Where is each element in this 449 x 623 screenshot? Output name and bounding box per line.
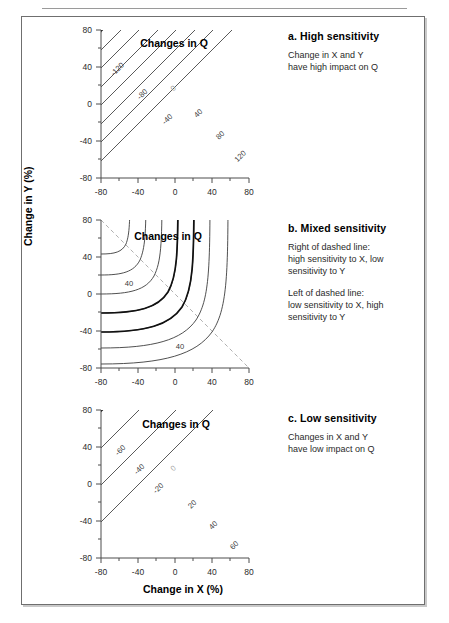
panel-c-xtick-labels: -80 -40 0 40 80 — [95, 567, 254, 577]
xtick-label: -40 — [132, 377, 145, 387]
xtick-label: 40 — [207, 567, 217, 577]
ytick-label: 80 — [83, 215, 93, 225]
contour-label: 120 — [233, 149, 248, 164]
ytick-label: 80 — [83, 25, 93, 35]
ytick-label: -40 — [80, 136, 93, 146]
panel-b-svg: 40 40 Changes in Q 80 40 0 -40 -80 — [70, 212, 260, 394]
xtick-label: 40 — [207, 377, 217, 387]
xtick-label: 0 — [173, 567, 178, 577]
contour-label: 40 — [192, 107, 204, 119]
ytick-label: -40 — [80, 516, 93, 526]
figure-root: -120 -80 -40 0 40 80 120 Changes in Q — [0, 0, 449, 623]
panel-a-description: Change in X and Y have high impact on Q — [288, 49, 418, 73]
ytick-label: 40 — [83, 62, 93, 72]
panel-a-ytick-labels: 80 40 0 -40 -80 — [80, 25, 93, 183]
contour-label: 40 — [176, 342, 184, 351]
xtick-label: -40 — [132, 187, 145, 197]
panel-a-contour-title: Changes in Q — [140, 37, 208, 49]
panel-b-description-right: Right of dashed line: high sensitivity t… — [288, 241, 426, 277]
ytick-label: 0 — [87, 289, 92, 299]
contour-label: 60 — [228, 539, 240, 551]
contour-label: -60 — [113, 443, 127, 457]
contour-label: 20 — [186, 498, 198, 510]
panel-b-title: b. Mixed sensitivity — [288, 222, 426, 234]
panel-a-svg: -120 -80 -40 0 40 80 120 Changes in Q — [70, 22, 260, 204]
top-rule — [42, 8, 407, 9]
contour-label: 40 — [207, 519, 219, 531]
ytick-label: -80 — [80, 363, 93, 373]
panel-a-axes — [101, 30, 249, 178]
y-axis-title: Change in Y (%) — [22, 166, 34, 246]
contour-label: 40 — [125, 279, 133, 288]
panel-c-plot: -60 -40 -20 0 20 40 60 Changes in Q — [70, 402, 260, 584]
contour-label: -80 — [135, 87, 149, 101]
panel-b-description-left: Left of dashed line: low sensitivity to … — [288, 287, 426, 323]
ytick-label: 80 — [83, 405, 93, 415]
panel-c-title: c. Low sensitivity — [288, 412, 420, 424]
contour-label: -40 — [160, 112, 174, 126]
panel-c-description: Changes in X and Y have low impact on Q — [288, 431, 420, 455]
xtick-label: -80 — [95, 377, 108, 387]
panel-c-ytick-labels: 80 40 0 -40 -80 — [80, 405, 93, 563]
xtick-label: -40 — [132, 567, 145, 577]
contour-label: 80 — [214, 129, 226, 141]
contour-label: -40 — [132, 462, 146, 476]
xtick-label: 80 — [244, 567, 254, 577]
panel-b-ticks — [96, 220, 249, 373]
ytick-label: 0 — [87, 99, 92, 109]
contour-label: 0 — [169, 464, 178, 473]
panel-b-xtick-labels: -80 -40 0 40 80 — [95, 377, 254, 387]
xtick-label: 0 — [173, 377, 178, 387]
xtick-label: 40 — [207, 187, 217, 197]
panel-b-plot: 40 40 Changes in Q 80 40 0 -40 -80 — [70, 212, 260, 394]
contour-label: -20 — [151, 481, 165, 495]
x-axis-title: Change in X (%) — [88, 583, 278, 595]
xtick-label: 0 — [173, 187, 178, 197]
xtick-label: -80 — [95, 567, 108, 577]
ytick-label: -80 — [80, 173, 93, 183]
panel-a-plot: -120 -80 -40 0 40 80 120 Changes in Q — [70, 22, 260, 204]
panel-c-svg: -60 -40 -20 0 20 40 60 Changes in Q — [70, 402, 260, 584]
panel-c-caption: c. Low sensitivity Changes in X and Y ha… — [288, 412, 420, 455]
panel-c-contour-zero — [70, 402, 260, 502]
panel-c-contour-labels: -60 -40 -20 0 20 40 60 — [113, 443, 240, 551]
panel-a-contours — [70, 22, 260, 204]
ytick-label: 40 — [83, 252, 93, 262]
panel-c-axes — [101, 410, 249, 558]
panel-a-xtick-labels: -80 -40 0 40 80 — [95, 187, 254, 197]
ytick-label: 0 — [87, 479, 92, 489]
panel-a-caption: a. High sensitivity Change in X and Y ha… — [288, 30, 418, 73]
panel-c-contour-title: Changes in Q — [142, 418, 210, 430]
ytick-label: 40 — [83, 442, 93, 452]
contour-label: -120 — [109, 61, 126, 78]
panel-c-ticks — [96, 410, 249, 563]
xtick-label: 80 — [244, 187, 254, 197]
xtick-label: 80 — [244, 377, 254, 387]
panel-b-ytick-labels: 80 40 0 -40 -80 — [80, 215, 93, 373]
panel-b-caption: b. Mixed sensitivity Right of dashed lin… — [288, 222, 426, 323]
panel-a-title: a. High sensitivity — [288, 30, 418, 42]
ytick-label: -80 — [80, 553, 93, 563]
xtick-label: -80 — [95, 187, 108, 197]
ytick-label: -40 — [80, 326, 93, 336]
panel-b-contour-title: Changes in Q — [134, 230, 202, 242]
